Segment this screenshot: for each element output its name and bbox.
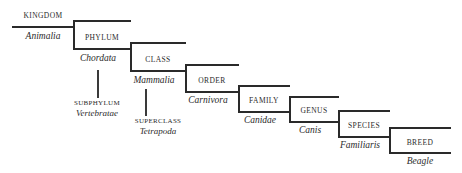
kingdom-taxon-name: Animalia <box>12 31 74 41</box>
superclass-block: SUPERCLASS Tetrapoda <box>124 117 192 136</box>
kingdom-rank-label: KINGDOM <box>12 11 74 20</box>
breed-base-rule <box>389 152 451 154</box>
species-base-rule <box>338 136 390 138</box>
genus-taxon-name: Canis <box>285 125 335 135</box>
superclass-rank-label: SUPERCLASS <box>124 117 192 125</box>
subphylum-block: SUBPHYLUM Vertebratae <box>62 99 132 118</box>
class-base-rule <box>130 70 186 72</box>
class-taxon-name: Mammalia <box>126 75 182 85</box>
class-rank-label: CLASS <box>130 55 186 64</box>
family-top-rule <box>238 85 290 87</box>
kingdom-top-rule <box>12 26 74 28</box>
phylum-base-rule <box>73 48 131 50</box>
breed-top-rule <box>389 127 451 129</box>
family-taxon-name: Canidae <box>234 115 286 125</box>
species-top-rule <box>338 110 390 112</box>
genus-base-rule <box>289 121 339 123</box>
superclass-taxon-name: Tetrapoda <box>124 126 192 136</box>
species-rank-label: SPECIES <box>338 121 390 130</box>
subphylum-dropline <box>97 70 99 98</box>
order-taxon-name: Carnivora <box>180 95 236 105</box>
family-base-rule <box>238 111 290 113</box>
subphylum-rank-label: SUBPHYLUM <box>62 99 132 107</box>
subphylum-taxon-name: Vertebratae <box>62 108 132 118</box>
order-base-rule <box>185 91 239 93</box>
genus-rank-label: GENUS <box>289 106 339 115</box>
phylum-rank-label: PHYLUM <box>73 33 131 42</box>
phylum-top-rule <box>73 20 131 22</box>
phylum-taxon-name: Chordata <box>69 53 127 63</box>
genus-top-rule <box>289 96 339 98</box>
order-top-rule <box>185 64 239 66</box>
taxonomy-diagram: KINGDOM Animalia PHYLUM Chordata CLASS M… <box>0 0 462 173</box>
species-taxon-name: Familiaris <box>332 140 388 150</box>
breed-taxon-name: Beagle <box>389 156 451 166</box>
superclass-dropline <box>145 89 147 116</box>
breed-rank-label: BREED <box>389 138 451 147</box>
family-rank-label: FAMILY <box>238 96 290 105</box>
class-top-rule <box>130 42 186 44</box>
order-rank-label: ORDER <box>185 76 239 85</box>
